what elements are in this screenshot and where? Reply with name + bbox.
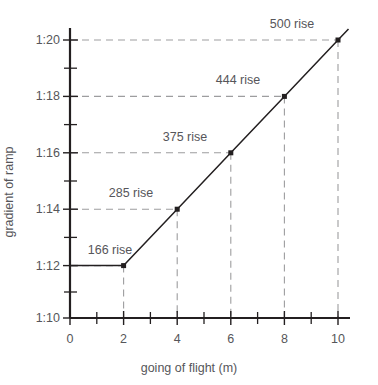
data-point-6 [228, 150, 233, 155]
x-tick-label-10: 10 [331, 332, 345, 346]
annotation-375-rise: 375 rise [163, 130, 207, 144]
y-tick-label-1-16: 1:16 [26, 146, 60, 160]
annotation-500-rise: 500 rise [270, 17, 314, 31]
annotation-444-rise: 444 rise [216, 73, 260, 87]
data-point-2 [121, 263, 126, 268]
data-point-10 [336, 38, 341, 43]
data-point-4 [175, 207, 180, 212]
y-tick-label-1-20: 1:20 [26, 33, 60, 47]
chart-container: 1:20 1:18 1:16 1:14 1:12 1:10 0 2 4 6 8 … [0, 0, 378, 385]
x-axis-title: going of flight (m) [141, 361, 238, 375]
x-tick-label-6: 6 [227, 332, 234, 346]
annotation-285-rise: 285 rise [109, 186, 153, 200]
chart-plot-area [0, 0, 378, 385]
y-tick-label-1-14: 1:14 [26, 202, 60, 216]
y-tick-label-1-12: 1:12 [26, 259, 60, 273]
x-tick-label-2: 2 [120, 332, 127, 346]
data-point-8 [282, 94, 287, 99]
y-axis-title: gradient of ramp [2, 146, 16, 237]
x-tick-label-4: 4 [174, 332, 181, 346]
y-tick-label-1-10: 1:10 [26, 311, 60, 325]
x-tick-label-0: 0 [67, 332, 74, 346]
x-tick-label-8: 8 [281, 332, 288, 346]
horizontal-guide-lines [70, 40, 338, 266]
annotation-166-rise: 166 rise [88, 243, 132, 257]
data-line-ramp-gradient [70, 29, 349, 266]
y-tick-label-1-18: 1:18 [26, 89, 60, 103]
